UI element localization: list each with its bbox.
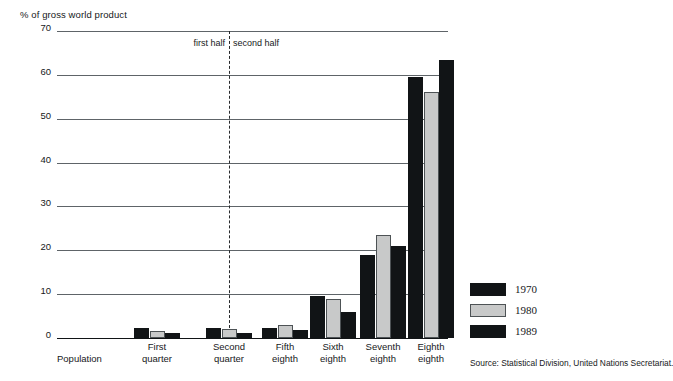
legend-label-1970: 1970: [515, 283, 537, 295]
y-tick-label-70: 70: [40, 22, 51, 33]
x-axis-label-eighth: Eightheighth: [391, 341, 471, 364]
bar-fifth-eighth-1980: [278, 325, 293, 338]
legend-swatch-1980: [470, 304, 506, 317]
bar-first-quarter-1989: [165, 333, 180, 338]
bar-sixth-eighth-1970: [310, 296, 325, 338]
x-label-line1: Eighth: [391, 341, 471, 353]
bar-seventh-eighth-1989: [391, 246, 406, 338]
bar-second-quarter-1989: [237, 333, 252, 338]
y-tick-label-10: 10: [40, 285, 51, 296]
bar-first-quarter-1970: [134, 328, 149, 338]
y-tick-label-40: 40: [40, 154, 51, 165]
x-label-line1: Population: [57, 353, 102, 365]
y-tick-label-60: 60: [40, 66, 51, 77]
bar-eighth-eighth-1970: [408, 77, 423, 338]
y-tick-label-0: 0: [46, 329, 51, 340]
bar-sixth-eighth-1989: [341, 312, 356, 338]
bar-first-quarter-1980: [150, 331, 165, 338]
x-label-line1: First: [117, 341, 197, 353]
gridline-0: 0: [57, 338, 448, 339]
bar-seventh-eighth-1980: [376, 235, 391, 338]
bar-eighth-eighth-1989: [439, 60, 454, 338]
x-axis-label-first: Firstquarter: [117, 341, 197, 364]
bar-eighth-eighth-1980: [424, 92, 439, 338]
x-axis-label-population: Population: [57, 353, 102, 365]
source-note: Source: Statistical Division, United Nat…: [470, 358, 673, 368]
bar-fifth-eighth-1989: [293, 330, 308, 338]
legend-swatch-1970: [470, 283, 506, 296]
bar-second-quarter-1970: [206, 328, 221, 338]
plot-area: 706050403020100 first half second half P…: [57, 31, 448, 338]
y-axis-title: % of gross world product: [20, 9, 127, 20]
bar-second-quarter-1980: [222, 329, 237, 338]
legend-label-1980: 1980: [515, 304, 537, 316]
legend-swatch-1989: [470, 325, 506, 338]
x-label-line2: eighth: [391, 353, 471, 365]
bar-seventh-eighth-1970: [360, 255, 375, 338]
bar-groups-layer: [57, 31, 448, 338]
bar-fifth-eighth-1970: [262, 328, 277, 338]
y-tick-label-30: 30: [40, 197, 51, 208]
bar-sixth-eighth-1980: [326, 299, 341, 338]
y-tick-label-50: 50: [40, 110, 51, 121]
x-label-line2: quarter: [117, 353, 197, 365]
y-tick-label-20: 20: [40, 241, 51, 252]
legend-label-1989: 1989: [515, 325, 537, 337]
